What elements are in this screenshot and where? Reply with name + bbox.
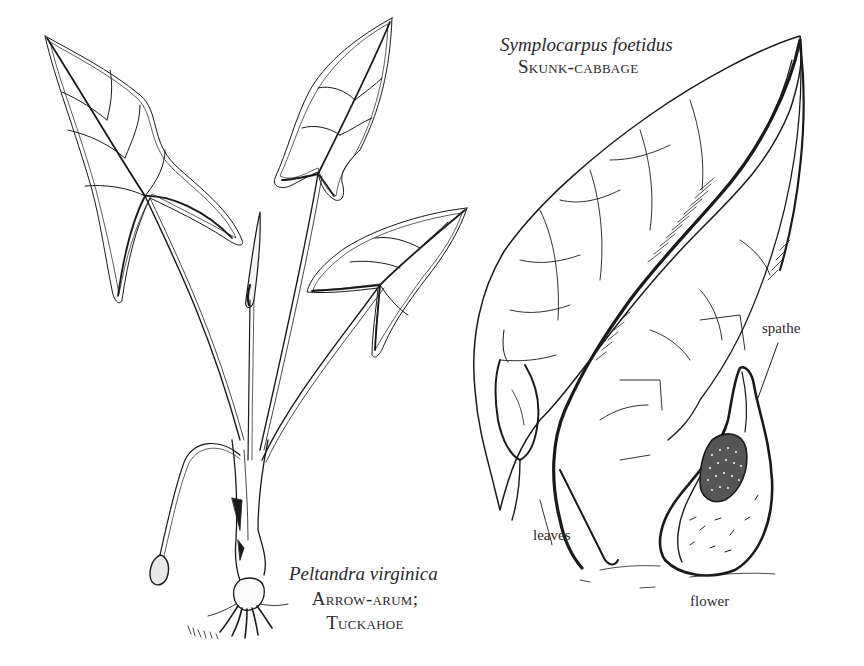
spathe-flower	[660, 367, 772, 575]
arrow-leaf-top	[274, 18, 392, 200]
symplocarpus-drawing	[474, 36, 804, 588]
fruit-stalk	[160, 444, 240, 555]
ground-marks	[188, 626, 218, 639]
peltandra-common-name-line1: Arrow-arum;	[300, 588, 430, 610]
arrow-leaf-lower	[307, 208, 467, 357]
spadix	[246, 212, 261, 460]
leaf-veins-lower	[312, 210, 465, 350]
label-leaves: leaves	[533, 527, 570, 544]
label-spathe: spathe	[762, 320, 800, 337]
symplocarpus-scientific-name: Symplocarpus foetidus	[500, 34, 673, 56]
leaf-veins-left-secondary	[62, 70, 165, 196]
spathe-leader-line	[758, 343, 778, 398]
peltandra-common-name-line2: Tuckahoe	[300, 612, 430, 634]
label-flower: flower	[690, 593, 729, 610]
fruit-pod	[150, 555, 168, 585]
symplocarpus-common-name: Skunk-cabbage	[518, 56, 638, 78]
arrow-leaf-left	[45, 36, 243, 303]
stem-base	[232, 440, 268, 580]
peltandra-scientific-name: Peltandra virginica	[289, 563, 438, 585]
leaf-veins-left	[47, 38, 232, 296]
peltandra-drawing	[45, 18, 467, 639]
